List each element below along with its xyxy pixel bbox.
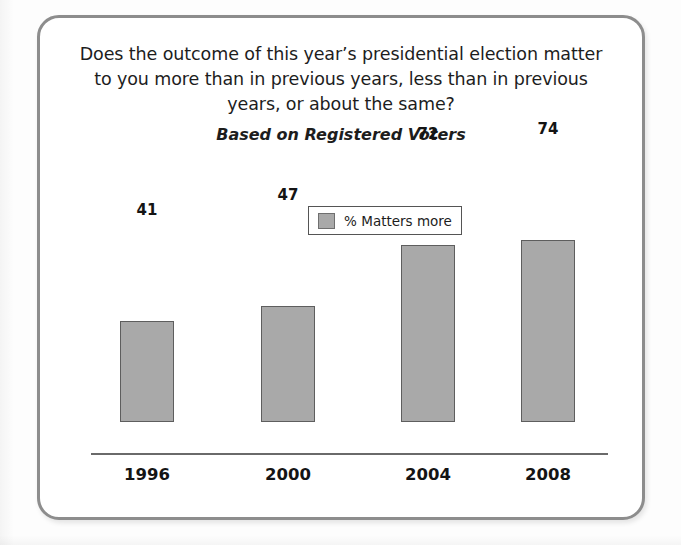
bar-value-label: 47 <box>261 186 315 204</box>
bar-1996 <box>120 321 174 422</box>
x-tick-label-2004: 2004 <box>378 465 478 484</box>
x-tick-label-1996: 1996 <box>97 465 197 484</box>
bar-2008 <box>521 240 575 422</box>
bar-series: 41 1996 47 2000 72 2004 74 2008 <box>40 18 642 517</box>
x-tick-label-2000: 2000 <box>238 465 338 484</box>
bar-value-label: 72 <box>401 125 455 143</box>
x-tick-label-2008: 2008 <box>498 465 598 484</box>
bar-2004 <box>401 245 455 422</box>
bar-2000 <box>261 306 315 422</box>
plot-area: 41 1996 47 2000 72 2004 74 2008 <box>40 18 642 517</box>
chart-frame: Does the outcome of this year’s presiden… <box>37 15 645 520</box>
bar-value-label: 41 <box>120 201 174 219</box>
bar-value-label: 74 <box>521 120 575 138</box>
